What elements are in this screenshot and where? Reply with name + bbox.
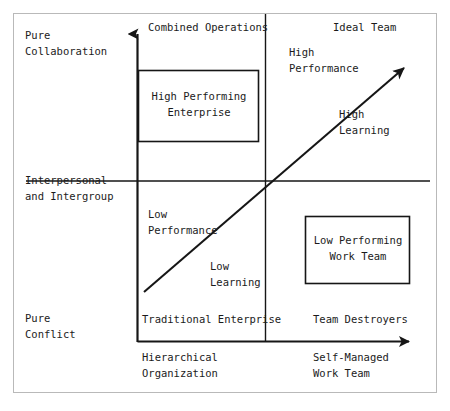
quadrant-label-ideal-team: Ideal Team [333, 19, 396, 35]
x-axis-right-label: Self-Managed Work Team [313, 349, 389, 381]
quadrant-label-combined-operations: Combined Operations [148, 19, 268, 35]
high-performing-enterprise-label: High Performing Enterprise [140, 88, 258, 120]
quadrant-label-traditional-enterprise: Traditional Enterprise [142, 311, 281, 327]
y-axis-middle-label: Interpersonal and Intergroup [25, 172, 114, 204]
annotation-low-learning: Low Learning [210, 258, 261, 290]
diagram-canvas: Pure Collaboration Interpersonal and Int… [0, 0, 450, 411]
low-performing-work-team-label: Low Performing Work Team [307, 232, 409, 264]
annotation-high-performance: High Performance [289, 44, 359, 76]
y-axis-top-label: Pure Collaboration [25, 27, 107, 59]
quadrant-label-team-destroyers: Team Destroyers [313, 311, 408, 327]
annotation-low-performance: Low Performance [148, 206, 218, 238]
annotation-high-learning: High Learning [339, 106, 390, 138]
x-axis-left-label: Hierarchical Organization [142, 349, 218, 381]
y-axis-bottom-label: Pure Conflict [25, 310, 76, 342]
